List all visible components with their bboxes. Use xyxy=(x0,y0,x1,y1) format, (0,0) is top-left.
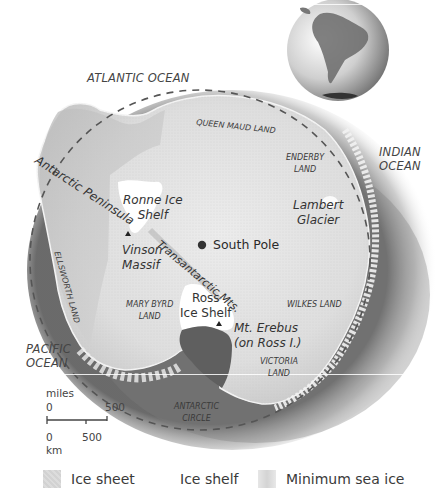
scale-km-label: km xyxy=(46,444,62,456)
legend-label-min-sea-ice: Minimum sea ice xyxy=(286,471,404,487)
scale-km-mid: 500 xyxy=(82,431,102,443)
scale-miles-label: miles xyxy=(46,387,74,399)
legend-item-ice-shelf: Ice shelf xyxy=(152,470,239,488)
ross-ice-shelf-label: Ross Ice Shelf xyxy=(180,291,232,321)
erebus-line-1: Mt. Erebus xyxy=(234,321,301,336)
locator-globe xyxy=(287,0,390,101)
ronne-ice-shelf-label: Ronne Ice Shelf xyxy=(123,193,183,223)
antarctic-circle-label: ANTARCTIC CIRCLE xyxy=(174,401,219,425)
ice-shelf-swatch-icon xyxy=(152,470,170,488)
victoria-line-1: VICTORIA xyxy=(260,356,298,368)
scale-miles-end: 500 xyxy=(105,401,125,413)
scale-bar: miles 0 500 0 500 km xyxy=(44,387,114,457)
legend-item-min-sea-ice: Minimum sea ice xyxy=(258,470,404,488)
ross-line-2: Ice Shelf xyxy=(180,306,232,321)
pacific-ocean-line-1: PACIFIC xyxy=(26,342,71,356)
vinson-line-2: Massif xyxy=(122,258,162,273)
legend-item-ice-sheet: Ice sheet xyxy=(43,470,135,488)
victoria-line-2: LAND xyxy=(260,368,298,380)
victoria-land-label: VICTORIA LAND xyxy=(260,356,298,380)
mary-byrd-line-2: LAND xyxy=(126,311,173,323)
erebus-line-2: (on Ross I.) xyxy=(234,336,301,351)
enderby-line-2: LAND xyxy=(286,164,324,176)
mary-byrd-line-1: MARY BYRD xyxy=(126,299,173,311)
ross-line-1: Ross xyxy=(180,291,232,306)
lambert-glacier-label: Lambert Glacier xyxy=(293,198,343,228)
pacific-ocean-line-2: OCEAN xyxy=(26,356,71,370)
south-pole-label: South Pole xyxy=(213,237,279,252)
scale-bar-line xyxy=(46,416,108,424)
enderby-line-1: ENDERBY xyxy=(286,152,324,164)
antarctic-circle-line-1: ANTARCTIC xyxy=(174,401,219,413)
indian-ocean-label: INDIAN OCEAN xyxy=(379,145,421,173)
atlantic-ocean-label: ATLANTIC OCEAN xyxy=(87,71,190,85)
min-sea-ice-swatch-icon xyxy=(258,470,276,488)
south-pole-dot xyxy=(198,241,206,249)
legend-label-ice-shelf: Ice shelf xyxy=(180,471,239,487)
legend: Ice sheet Ice shelf Minimum sea ice xyxy=(0,465,443,495)
ice-sheet-swatch-icon xyxy=(43,470,61,488)
ronne-line-2: Shelf xyxy=(123,208,183,223)
legend-label-ice-sheet: Ice sheet xyxy=(71,471,135,487)
scale-miles-start: 0 xyxy=(46,401,53,413)
pacific-ocean-label: PACIFIC OCEAN xyxy=(26,342,71,370)
indian-ocean-line-2: OCEAN xyxy=(379,159,421,173)
wilkes-land-label: WILKES LAND xyxy=(287,299,342,311)
scale-km-start: 0 xyxy=(46,431,53,443)
lambert-line-2: Glacier xyxy=(293,213,343,228)
mt-erebus-label: Mt. Erebus (on Ross I.) xyxy=(234,321,301,351)
indian-ocean-line-1: INDIAN xyxy=(379,145,421,159)
mary-byrd-land-label: MARY BYRD LAND xyxy=(126,299,173,323)
ronne-line-1: Ronne Ice xyxy=(123,193,183,208)
enderby-land-label: ENDERBY LAND xyxy=(286,152,324,176)
antarctic-circle-line-2: CIRCLE xyxy=(174,413,219,425)
lambert-line-1: Lambert xyxy=(293,198,343,213)
